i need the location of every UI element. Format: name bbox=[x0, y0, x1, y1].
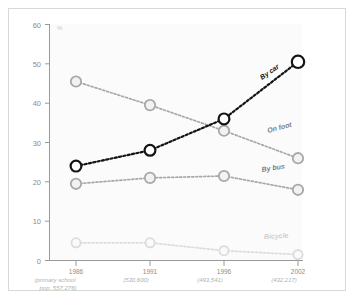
plot-background bbox=[50, 24, 302, 261]
y-tick-label-30: 30 bbox=[33, 139, 41, 148]
x-tick-year-2002: 2002 bbox=[291, 268, 306, 275]
data-point bbox=[219, 171, 229, 181]
x-sub-1986-line2: pop. 557,276) bbox=[38, 285, 76, 291]
x-tick-year-1996: 1996 bbox=[217, 268, 232, 275]
data-point bbox=[145, 238, 154, 247]
data-point bbox=[145, 145, 156, 156]
y-axis-unit-label: % bbox=[57, 25, 63, 31]
x-sub-1991: (530,600) bbox=[123, 277, 149, 283]
data-point bbox=[71, 161, 82, 172]
data-point bbox=[293, 250, 302, 259]
x-axis-ticks bbox=[76, 261, 298, 267]
y-axis-ticks bbox=[45, 25, 50, 261]
y-tick-label-40: 40 bbox=[33, 99, 41, 108]
y-tick-label-10: 10 bbox=[33, 217, 41, 226]
line-chart: 60 50 40 30 20 10 0 % 1986 1991 1996 200… bbox=[0, 0, 356, 301]
data-point bbox=[292, 56, 304, 68]
x-tick-year-1986: 1986 bbox=[69, 268, 84, 275]
data-point bbox=[145, 173, 155, 183]
data-point bbox=[293, 185, 303, 195]
data-point bbox=[145, 100, 155, 110]
data-point bbox=[219, 246, 228, 255]
y-tick-label-0: 0 bbox=[37, 257, 41, 266]
x-sub-1986-line1: (primary school bbox=[34, 277, 76, 283]
y-tick-label-20: 20 bbox=[33, 178, 41, 187]
x-sub-1996: (493,541) bbox=[197, 277, 223, 283]
data-point bbox=[71, 76, 81, 86]
data-point bbox=[219, 126, 229, 136]
data-point bbox=[71, 179, 81, 189]
data-point bbox=[293, 153, 303, 163]
y-tick-label-50: 50 bbox=[33, 60, 41, 69]
data-point bbox=[219, 114, 230, 125]
y-tick-label-60: 60 bbox=[33, 21, 41, 30]
data-point bbox=[71, 238, 80, 247]
x-tick-year-1991: 1991 bbox=[143, 268, 158, 275]
x-sub-2002: (432,217) bbox=[271, 277, 297, 283]
